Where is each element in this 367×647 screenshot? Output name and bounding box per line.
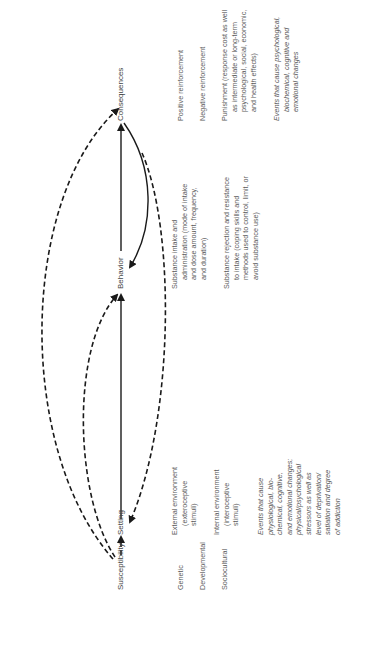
factor-sociocultural: Sociocultural — [220, 549, 230, 590]
factor-developmental: Developmental — [198, 542, 208, 590]
node-susceptibility: Susceptibility — [116, 543, 125, 590]
setting-events: Events that cause physiological, bio- ch… — [256, 459, 342, 535]
node-behavior: Behavior — [116, 257, 125, 289]
setting-internal-environment: Internal environment (interoceptive stim… — [212, 469, 241, 535]
consequence-positive-reinforcement: Positive reinforcement — [176, 50, 186, 121]
setting-external-environment: External environment (exteroceptive stim… — [170, 467, 199, 535]
factor-genetic: Genetic — [176, 565, 186, 590]
node-consequences: Consequences — [116, 68, 125, 121]
behavior-substance-rejection: Substance rejection and resistance to in… — [222, 176, 260, 289]
arrow-susceptibility-consequences — [42, 109, 118, 559]
behavior-substance-intake: Substance intake and administration (mod… — [170, 184, 208, 289]
consequence-negative-reinforcement: Negative reinforcement — [198, 47, 208, 121]
node-setting: Setting — [116, 510, 125, 535]
arrow-consequences-behavior — [124, 123, 148, 267]
consequence-punishment: Punishment (response cost as well as int… — [220, 10, 258, 121]
arrow-susceptibility-behavior — [83, 295, 117, 557]
diagram-canvas: Susceptibility Setting Behavior Conseque… — [0, 0, 367, 647]
consequence-events: Events that cause psychological, biochem… — [272, 17, 301, 121]
